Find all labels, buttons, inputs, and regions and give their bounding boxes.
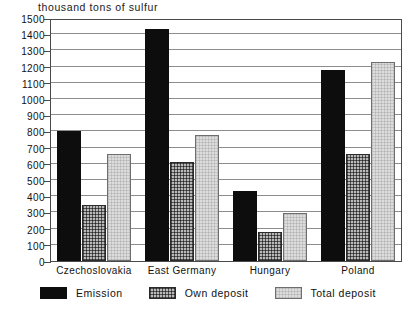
y-axis-tick (44, 245, 51, 246)
y-axis-tick (44, 51, 51, 52)
y-axis-tick-label: 400 (0, 192, 45, 203)
y-axis-tick-label: 800 (0, 127, 45, 138)
y-axis-tick (44, 262, 51, 263)
bar-east-germany-emission (145, 29, 170, 261)
bar-poland-emission (321, 70, 346, 261)
category-label-czechoslovakia: Czechoslovakia (56, 265, 132, 276)
y-axis-tick-label: 700 (0, 143, 45, 154)
category-label-poland: Poland (341, 265, 375, 276)
y-axis-tick (44, 164, 51, 165)
bar-hungary-own (258, 232, 283, 261)
bar-group-czechoslovakia (57, 20, 132, 261)
y-axis-tick (44, 197, 51, 198)
y-axis-tick (44, 213, 51, 214)
bar-czechoslovakia-own (82, 205, 107, 261)
y-axis-tick-label: 0 (0, 257, 45, 268)
chart-axis-title: thousand tons of sulfur (38, 1, 158, 13)
legend-swatch-own-icon (149, 287, 176, 299)
y-axis-tick (44, 83, 51, 84)
legend-item-emission[interactable]: Emission (40, 287, 123, 299)
legend-label-own: Own deposit (185, 287, 249, 299)
y-axis-tick-label: 500 (0, 176, 45, 187)
legend-swatch-total-icon (275, 287, 302, 299)
y-axis-tick-label: 1300 (0, 46, 45, 57)
y-axis-tick-label: 100 (0, 240, 45, 251)
sulfur-bar-chart: thousand tons of sulfur 0100200300400500… (0, 0, 416, 314)
chart-legend: EmissionOwn depositTotal deposit (0, 287, 416, 299)
bar-group-poland (321, 20, 396, 261)
bar-group-hungary (233, 20, 308, 261)
category-label-east-germany: East Germany (148, 265, 217, 276)
bar-group-east-germany (145, 20, 220, 261)
y-axis-tick (44, 181, 51, 182)
y-axis-tick-label: 900 (0, 111, 45, 122)
bar-hungary-emission (233, 191, 258, 261)
y-axis-tick-label: 1100 (0, 78, 45, 89)
y-axis-tick (44, 148, 51, 149)
legend-swatch-emission-icon (40, 287, 67, 299)
y-axis-tick-label: 600 (0, 159, 45, 170)
y-axis-tick-label: 1500 (0, 14, 45, 25)
plot-area (50, 19, 402, 262)
legend-item-own[interactable]: Own deposit (149, 287, 249, 299)
y-axis-tick (44, 35, 51, 36)
bar-hungary-total (283, 213, 308, 261)
y-axis-tick (44, 132, 51, 133)
y-axis-tick (44, 100, 51, 101)
category-label-hungary: Hungary (250, 265, 291, 276)
legend-item-total[interactable]: Total deposit (275, 287, 376, 299)
bar-east-germany-own (170, 162, 195, 261)
legend-label-total: Total deposit (311, 287, 376, 299)
bar-east-germany-total (195, 135, 220, 261)
y-axis-tick-label: 300 (0, 208, 45, 219)
legend-label-emission: Emission (76, 287, 123, 299)
bar-series-container (51, 20, 401, 261)
y-axis-tick (44, 19, 51, 20)
y-axis-tick (44, 229, 51, 230)
y-axis-tick-label: 1000 (0, 95, 45, 106)
y-axis-tick (44, 116, 51, 117)
y-axis-tick-label: 1200 (0, 62, 45, 73)
bar-poland-own (346, 154, 371, 261)
bar-poland-total (371, 62, 396, 261)
bar-czechoslovakia-total (107, 154, 132, 261)
y-axis-tick (44, 67, 51, 68)
y-axis-tick-label: 1400 (0, 30, 45, 41)
y-axis-tick-label: 200 (0, 224, 45, 235)
bar-czechoslovakia-emission (57, 131, 82, 261)
